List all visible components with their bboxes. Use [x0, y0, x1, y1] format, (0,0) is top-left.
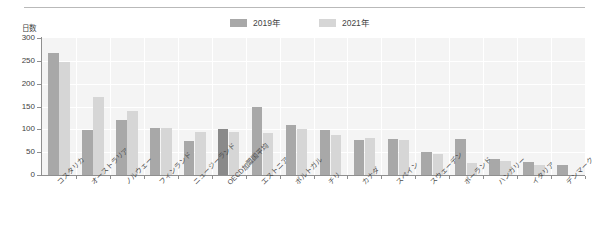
legend-item-1: 2021年 [319, 19, 370, 28]
y-tick-label: 50 [26, 148, 35, 156]
vertical-gridline [449, 38, 450, 175]
vertical-gridline [314, 38, 315, 175]
bar-0-6 [252, 107, 263, 175]
bar-0-14 [523, 162, 534, 175]
y-tick-mark [37, 61, 41, 62]
header-divider [24, 7, 585, 8]
x-tick-mark [381, 176, 382, 179]
x-tick-mark [76, 176, 77, 179]
x-tick-mark [212, 176, 213, 179]
vertical-gridline [517, 38, 518, 175]
bar-1-8 [331, 135, 342, 175]
y-axis-line [41, 37, 42, 176]
y-tick-mark [37, 152, 41, 153]
vertical-gridline [483, 38, 484, 175]
vertical-gridline [110, 38, 111, 175]
bar-0-11 [421, 152, 432, 175]
vertical-gridline [178, 38, 179, 175]
chart-legend: 2019年2021年 [230, 17, 370, 29]
vertical-gridline [347, 38, 348, 175]
vertical-gridline [246, 38, 247, 175]
x-tick-mark [110, 176, 111, 179]
y-tick-mark [37, 84, 41, 85]
legend-label: 2019年 [253, 19, 281, 28]
bar-0-10 [388, 139, 399, 175]
vertical-gridline [551, 38, 552, 175]
x-tick-mark [517, 176, 518, 179]
bar-0-8 [320, 130, 331, 175]
bar-1-2 [127, 111, 138, 175]
x-tick-mark [246, 176, 247, 179]
x-tick-mark [178, 176, 179, 179]
bar-0-9 [354, 140, 365, 175]
y-tick-label: 300 [22, 34, 35, 42]
chart-figure: 2019年2021年 日数 300250200150100500 コスタリカオー… [0, 0, 595, 236]
x-tick-mark [314, 176, 315, 179]
bar-0-0 [48, 53, 59, 175]
vertical-gridline [280, 38, 281, 175]
bar-1-0 [59, 62, 70, 175]
x-tick-mark [347, 176, 348, 179]
legend-swatch-icon [319, 19, 336, 27]
y-tick-label: 150 [22, 103, 35, 111]
vertical-gridline [212, 38, 213, 175]
legend-item-0: 2019年 [230, 19, 281, 28]
legend-label: 2021年 [342, 19, 370, 28]
y-axis-tick-labels: 300250200150100500 [0, 0, 35, 236]
vertical-gridline [76, 38, 77, 175]
x-tick-mark [415, 176, 416, 179]
x-tick-mark [449, 176, 450, 179]
y-tick-label: 0 [31, 171, 35, 179]
x-tick-mark [483, 176, 484, 179]
vertical-gridline [144, 38, 145, 175]
legend-swatch-icon [230, 19, 247, 27]
x-tick-mark [144, 176, 145, 179]
y-tick-mark [37, 38, 41, 39]
vertical-gridline [381, 38, 382, 175]
x-tick-mark [280, 176, 281, 179]
bar-0-15 [557, 165, 568, 175]
bar-0-7 [286, 125, 297, 175]
bar-0-3 [150, 128, 161, 175]
y-tick-label: 200 [22, 80, 35, 88]
bar-0-1 [82, 130, 93, 175]
x-tick-mark [585, 176, 586, 179]
y-tick-mark [37, 175, 41, 176]
bar-1-1 [93, 97, 104, 175]
y-tick-mark [37, 107, 41, 108]
y-tick-label: 250 [22, 57, 35, 65]
y-tick-mark [37, 129, 41, 130]
vertical-gridline [415, 38, 416, 175]
y-tick-label: 100 [22, 125, 35, 133]
x-tick-mark [551, 176, 552, 179]
